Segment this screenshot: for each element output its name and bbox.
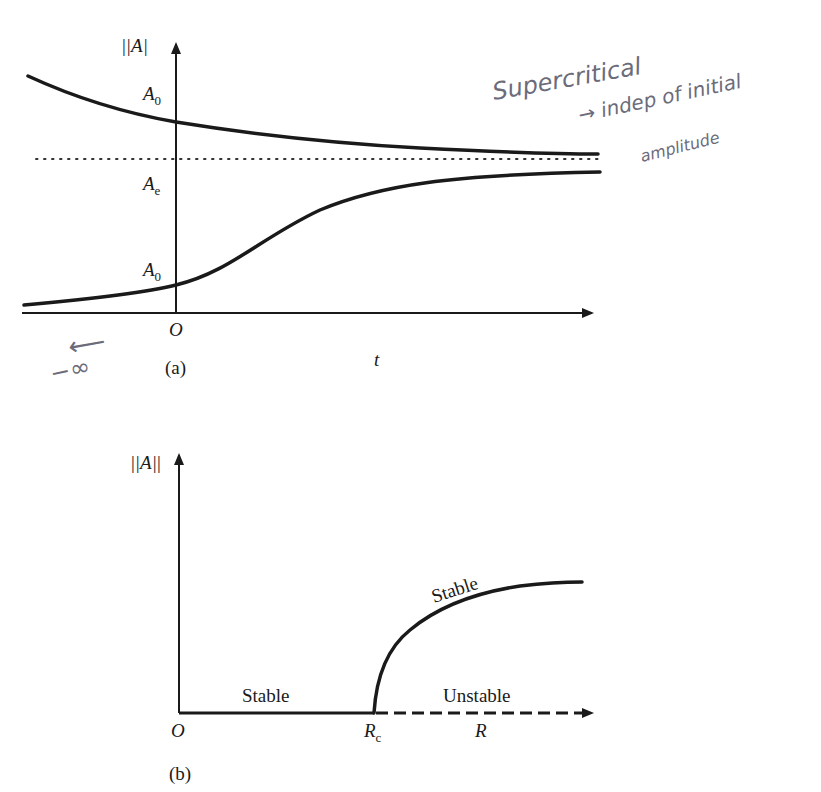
upper-a0-label: A0 (141, 83, 161, 108)
panel-b-origin-label: O (171, 720, 185, 741)
panel-a-y-label: ||A| (122, 35, 148, 56)
panel-b-x-label: R (474, 720, 487, 741)
figure-canvas: ||A| A0 Ae A0 O t (a) Supercritical → in… (0, 0, 821, 792)
note-amplitude: amplitude (638, 128, 721, 166)
unstable-label: Unstable (443, 685, 511, 706)
critical-rc-label: Rc (363, 720, 382, 745)
panel-a-caption: (a) (165, 357, 186, 379)
panel-b: ||A|| Stable Stable Unstable O Rc R (b) (131, 452, 592, 785)
equilibrium-ae-label: Ae (141, 173, 161, 198)
panel-a-x-label: t (374, 349, 380, 370)
panel-a-origin-label: O (169, 319, 183, 340)
note-neg-infinity: −∞ (47, 352, 92, 388)
stable-left-label: Stable (242, 685, 290, 706)
lower-growth-curve (24, 172, 600, 305)
lower-a0-label: A0 (141, 259, 161, 284)
panel-b-y-label: ||A|| (131, 452, 161, 473)
panel-b-caption: (b) (169, 763, 191, 785)
